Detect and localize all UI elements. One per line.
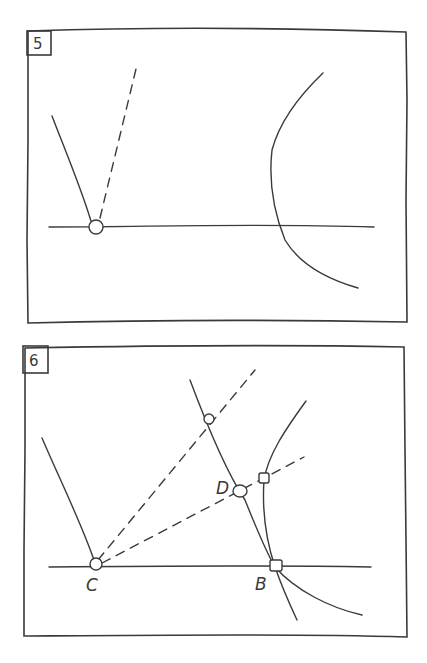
diagram-canvas: 5 6 C B D <box>0 0 427 663</box>
label-c: C <box>86 575 98 595</box>
point-d <box>233 485 247 497</box>
panel-5-frame <box>27 29 407 324</box>
panel-6-curve <box>263 401 362 615</box>
panel-6-solid-ray-c <box>42 438 94 560</box>
panel-5-curve <box>271 73 358 288</box>
point-upper-intersection <box>204 414 214 424</box>
point-curve-intersection <box>259 473 269 483</box>
panel-6-dashed-ray-lower <box>102 457 304 563</box>
panel-5-point <box>89 220 103 234</box>
panel-5: 5 <box>27 29 407 324</box>
panel-5-dashed-ray <box>100 69 136 218</box>
label-d: D <box>216 478 229 498</box>
panel-5-number: 5 <box>33 35 43 53</box>
label-b: B <box>255 574 267 594</box>
panel-6-dashed-ray-upper <box>98 370 255 560</box>
point-c <box>90 558 102 570</box>
panel-5-solid-ray <box>52 116 91 221</box>
point-b <box>270 560 282 571</box>
panel-6: 6 C B D <box>23 345 407 637</box>
panel-6-number: 6 <box>29 352 39 370</box>
